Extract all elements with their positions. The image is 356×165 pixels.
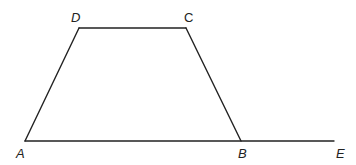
diagram-canvas: A B C D E — [0, 0, 356, 165]
point-label-b: B — [238, 146, 247, 161]
trapezoid-diagram: A B C D E — [0, 0, 356, 165]
point-label-a: A — [15, 146, 25, 161]
point-label-e: E — [336, 146, 345, 161]
segment-ad — [25, 28, 79, 141]
segment-cb — [186, 28, 241, 141]
point-label-d: D — [71, 10, 80, 25]
point-label-c: C — [184, 10, 193, 25]
